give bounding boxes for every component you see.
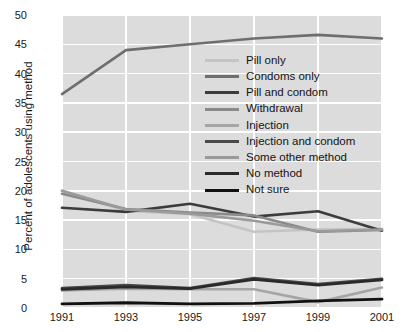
y-tick-label: 35: [0, 97, 27, 109]
y-tick-label: 30: [0, 126, 27, 138]
legend-swatch: [205, 59, 239, 62]
legend-item[interactable]: Withdrawal: [205, 102, 355, 117]
legend-item[interactable]: Not sure: [205, 183, 355, 198]
legend-swatch: [205, 172, 239, 175]
x-tick-label: 1991: [34, 311, 90, 323]
legend-item[interactable]: Injection: [205, 118, 355, 133]
x-tick-label: 1999: [290, 311, 346, 323]
x-tick-label: 1993: [98, 311, 154, 323]
legend-label: Condoms only: [246, 71, 320, 83]
y-tick-label: 15: [0, 214, 27, 226]
y-tick-label: 50: [0, 9, 27, 21]
x-tick-label: 2001: [354, 311, 410, 323]
legend-swatch: [205, 140, 239, 143]
legend-label: Injection: [246, 120, 289, 132]
y-tick-label: 10: [0, 243, 27, 255]
legend-label: Some other method: [246, 152, 347, 164]
y-tick-label: 45: [0, 38, 27, 50]
legend-item[interactable]: Pill only: [205, 53, 355, 68]
y-tick-label: 0: [0, 302, 27, 314]
legend-item[interactable]: Pill and condom: [205, 85, 355, 100]
legend-item[interactable]: Condoms only: [205, 69, 355, 84]
legend-item[interactable]: No method: [205, 166, 355, 181]
legend-swatch: [205, 91, 239, 94]
legend-swatch: [205, 156, 239, 159]
legend: Pill onlyCondoms onlyPill and condomWith…: [205, 53, 355, 198]
legend-swatch: [205, 108, 239, 111]
y-tick-label: 5: [0, 273, 27, 285]
legend-label: No method: [246, 168, 302, 180]
legend-label: Pill and condom: [246, 87, 328, 99]
legend-item[interactable]: Some other method: [205, 150, 355, 165]
legend-swatch: [205, 189, 239, 192]
legend-label: Not sure: [246, 184, 289, 196]
y-tick-label: 25: [0, 156, 27, 168]
legend-label: Injection and condom: [246, 136, 355, 148]
legend-label: Withdrawal: [246, 103, 303, 115]
line-chart: Percent of adolescents using method 0510…: [0, 0, 413, 332]
x-tick-label: 1997: [226, 311, 282, 323]
series-line: [62, 279, 382, 289]
y-tick-label: 20: [0, 185, 27, 197]
series-line: [62, 299, 382, 304]
y-tick-label: 40: [0, 68, 27, 80]
series-line: [62, 194, 382, 232]
x-tick-label: 1995: [162, 311, 218, 323]
legend-label: Pill only: [246, 55, 286, 67]
legend-swatch: [205, 75, 239, 78]
legend-swatch: [205, 124, 239, 127]
legend-item[interactable]: Injection and condom: [205, 134, 355, 149]
